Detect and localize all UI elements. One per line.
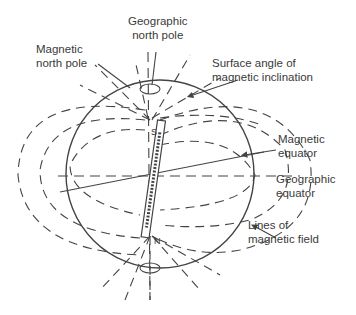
north-rotation-icon [140, 84, 160, 94]
leader-mag-equator [244, 150, 276, 155]
magnet-n-label: N [154, 236, 161, 246]
polar-lines-top [80, 55, 220, 120]
label-magnetic-north-pole: Magneticnorth pole [36, 42, 87, 70]
magnet-s-label: S [151, 127, 157, 137]
field-lines-left [18, 106, 145, 255]
bar-magnet [141, 120, 165, 238]
label-field-lines: Lines ofmagnetic field [248, 218, 319, 246]
label-surface-angle: Surface angle ofmagnetic inclination [212, 56, 313, 84]
magnetic-equator-line [60, 152, 264, 192]
label-geographic-equator: Geographicequator [276, 172, 335, 200]
label-magnetic-equator: Magneticequator [278, 132, 325, 160]
label-geographic-north-pole: Geographicnorth pole [128, 14, 187, 42]
